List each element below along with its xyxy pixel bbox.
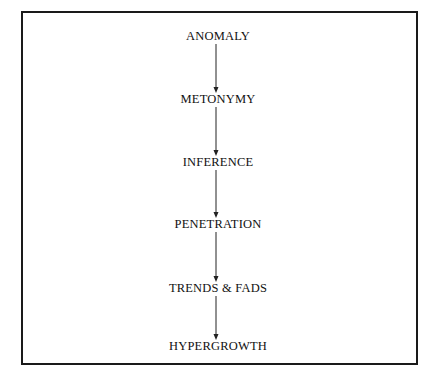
node-penetration: PENETRATION: [0, 217, 436, 231]
node-hypergrowth: HYPERGROWTH: [0, 339, 436, 353]
node-anomaly: ANOMALY: [0, 29, 436, 43]
node-inference: INFERENCE: [0, 155, 436, 169]
node-metonymy: METONYMY: [0, 92, 436, 106]
node-trends-fads: TRENDS & FADS: [0, 281, 436, 295]
flow-arrows: [0, 0, 436, 379]
